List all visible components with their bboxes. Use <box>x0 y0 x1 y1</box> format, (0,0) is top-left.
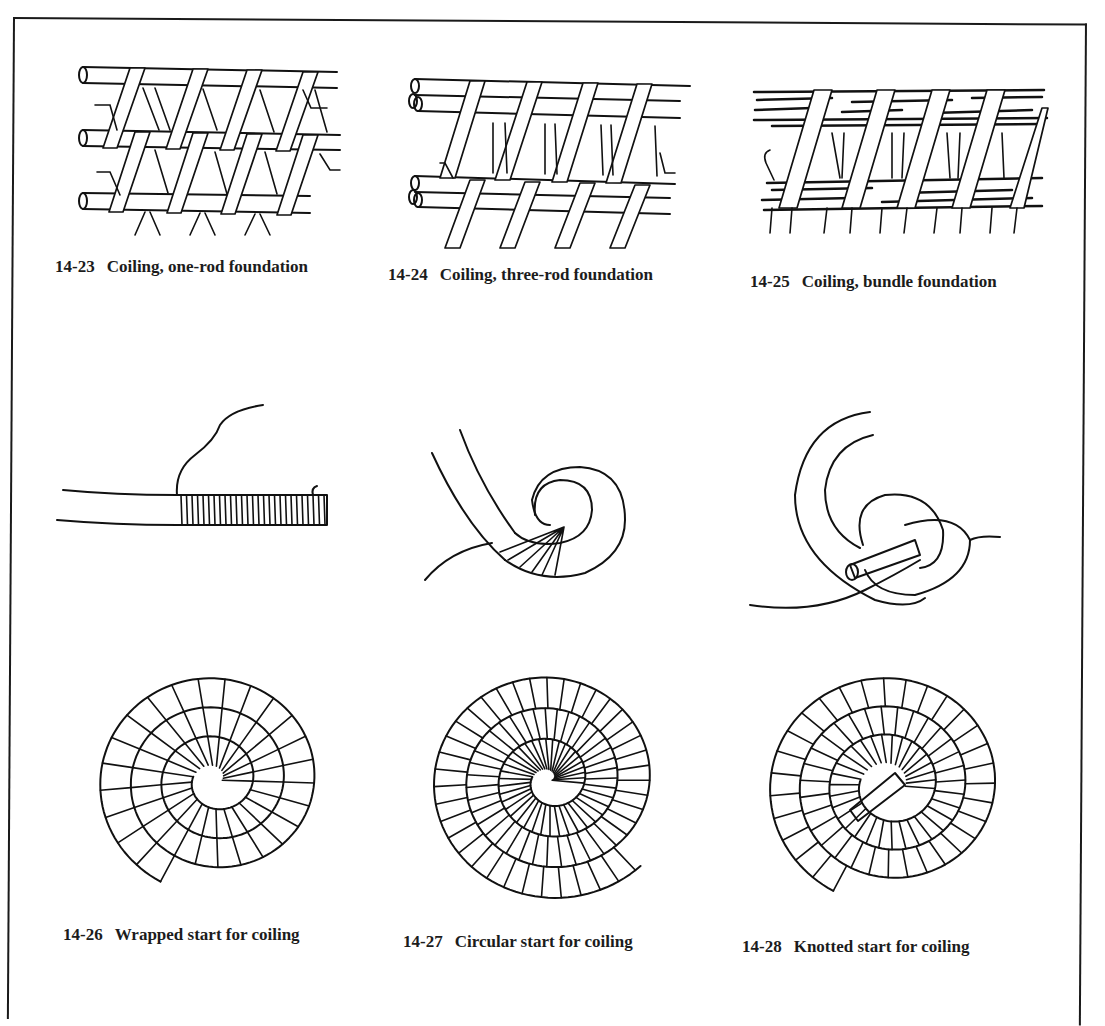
wrapped-start-drawing <box>55 400 355 560</box>
caption-14-27: 14-27Circular start for coiling <box>403 932 633 952</box>
three-rod-coil-drawing <box>405 78 695 248</box>
knotted-start-drawing <box>745 400 1005 610</box>
caption-14-23: 14-23Coiling, one-rod foundation <box>55 257 308 277</box>
figure-title: Wrapped start for coiling <box>115 925 300 944</box>
wrapped-spiral-drawing <box>75 655 355 905</box>
circular-spiral-drawing <box>410 645 690 915</box>
caption-14-24: 14-24Coiling, three-rod foundation <box>388 265 653 285</box>
bundle-coil-drawing <box>752 88 1052 238</box>
figure-number: 14-24 <box>388 265 428 284</box>
figure-number: 14-25 <box>750 272 790 291</box>
figure-title: Coiling, one-rod foundation <box>107 257 308 276</box>
figure-number: 14-27 <box>403 932 443 951</box>
figure-number: 14-28 <box>742 937 782 956</box>
figure-title: Coiling, bundle foundation <box>802 272 997 291</box>
figure-number: 14-23 <box>55 257 95 276</box>
figure-title: Coiling, three-rod foundation <box>440 265 653 284</box>
figure-number: 14-26 <box>63 925 103 944</box>
knotted-spiral-drawing <box>745 655 1035 915</box>
caption-14-25: 14-25Coiling, bundle foundation <box>750 272 997 292</box>
caption-14-28: 14-28Knotted start for coiling <box>742 937 969 957</box>
caption-14-26: 14-26Wrapped start for coiling <box>63 925 300 945</box>
one-rod-coil-drawing <box>75 60 355 240</box>
circular-start-drawing <box>420 425 620 585</box>
figure-title: Knotted start for coiling <box>794 937 970 956</box>
figure-title: Circular start for coiling <box>455 932 633 951</box>
